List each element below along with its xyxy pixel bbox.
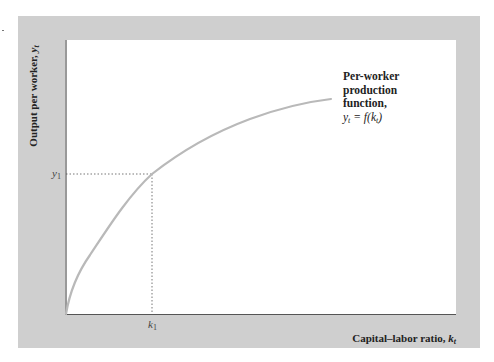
y-axis-label-text: Output per worker, bbox=[27, 53, 39, 147]
curve-label-line1: Per-worker bbox=[343, 70, 399, 84]
x-axis-sub: t bbox=[454, 337, 456, 346]
tick-y1-sub: 1 bbox=[57, 172, 61, 181]
eq-mid: = f( bbox=[350, 111, 371, 123]
production-function-curve bbox=[66, 99, 331, 314]
y-axis-sub: t bbox=[32, 45, 41, 47]
chart-svg bbox=[0, 0, 494, 362]
tick-k1-sub: 1 bbox=[153, 323, 157, 332]
tick-y1: y1 bbox=[52, 167, 61, 181]
curve-equation: yt = f(kt) bbox=[343, 111, 399, 128]
eq-end: ) bbox=[378, 111, 382, 123]
curve-label-line2: production bbox=[343, 84, 399, 98]
y-axis-label: Output per worker, yt bbox=[27, 45, 41, 146]
y-axis-var: y bbox=[27, 48, 39, 53]
x-axis-label: Capital–labor ratio, kt bbox=[352, 332, 456, 346]
x-axis-label-text: Capital–labor ratio, bbox=[352, 332, 448, 344]
tick-k1: k1 bbox=[148, 318, 157, 332]
curve-label-line3: function, bbox=[343, 97, 399, 111]
curve-label: Per-worker production function, yt = f(k… bbox=[343, 70, 399, 127]
